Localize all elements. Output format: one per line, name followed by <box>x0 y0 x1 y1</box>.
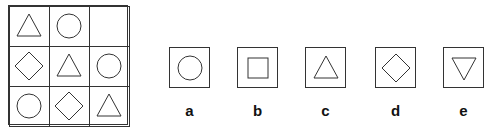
option-c[interactable]: c <box>305 47 346 88</box>
option-box[interactable] <box>169 47 210 88</box>
option-e[interactable]: e <box>443 47 484 88</box>
diamond-icon <box>14 51 44 81</box>
option-a[interactable]: a <box>169 47 210 88</box>
diamond-icon <box>54 91 84 121</box>
option-label: c <box>305 102 346 119</box>
option-box[interactable] <box>237 47 278 88</box>
option-label: a <box>169 102 210 119</box>
option-box[interactable] <box>305 47 346 88</box>
grid-cell <box>9 46 50 87</box>
option-label: e <box>443 102 484 119</box>
grid-cell <box>49 6 90 47</box>
grid-cell <box>89 46 130 87</box>
circle-icon <box>14 91 44 121</box>
diamond-icon <box>381 53 411 83</box>
inverted-triangle-icon <box>449 53 479 83</box>
option-box[interactable] <box>375 47 416 88</box>
grid-cell <box>9 86 50 127</box>
option-b[interactable]: b <box>237 47 278 88</box>
missing-cell <box>89 6 130 47</box>
triangle-icon <box>54 51 84 81</box>
option-box[interactable] <box>443 47 484 88</box>
circle-icon <box>54 11 84 41</box>
option-d[interactable]: d <box>375 47 416 88</box>
circle-icon <box>175 53 205 83</box>
option-label: b <box>237 102 278 119</box>
circle-icon <box>94 51 124 81</box>
triangle-icon <box>311 53 341 83</box>
grid-cell <box>49 46 90 87</box>
grid-cell <box>49 86 90 127</box>
puzzle-grid <box>8 5 128 125</box>
option-label: d <box>375 102 416 119</box>
triangle-icon <box>14 11 44 41</box>
triangle-icon <box>94 91 124 121</box>
grid-cell <box>9 6 50 47</box>
grid-cell <box>89 86 130 127</box>
square-icon <box>243 53 273 83</box>
